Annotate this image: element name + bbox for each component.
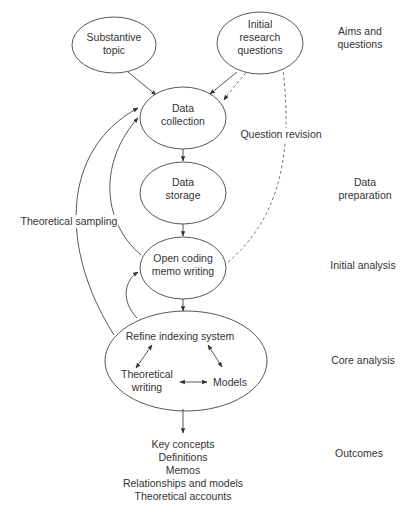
stage-outcomes: Outcomes: [335, 447, 383, 459]
stage-data-preparation: preparation: [338, 189, 391, 201]
edge-refine-models: [208, 345, 222, 367]
edge-topic-to-collection: [128, 72, 156, 95]
research-process-diagram: Substantive topic Initial research quest…: [0, 0, 404, 519]
outcome-item: Definitions: [158, 451, 207, 463]
svg-text:Theoretical sampling: Theoretical sampling: [21, 215, 118, 227]
node-label: topic: [103, 44, 125, 56]
stage-labels: Aims and questions Data preparation Init…: [330, 25, 395, 459]
core-theoretical-label: writing: [131, 381, 163, 393]
outcomes-list: Key concepts Definitions Memos Relations…: [123, 438, 243, 502]
node-label: storage: [165, 189, 200, 201]
edge-core-to-coding: [126, 272, 138, 318]
node-label: Data: [172, 176, 194, 188]
stage-initial-analysis: Initial analysis: [330, 259, 395, 271]
node-label: Initial: [248, 18, 273, 30]
outcome-item: Theoretical accounts: [135, 490, 232, 502]
node-core-analysis: Refine indexing system Theoretical writi…: [105, 311, 267, 411]
node-label: research: [240, 31, 281, 43]
stage-aims: Aims and: [338, 25, 382, 37]
node-initial-research-questions: Initial research questions: [217, 12, 303, 74]
node-data-collection: Data collection: [140, 87, 226, 149]
edge-label-question-revision: Question revision: [240, 128, 321, 141]
edge-question-revision: [224, 57, 286, 262]
node-substantive-topic: Substantive topic: [72, 17, 156, 73]
edge-refine-theoretical: [136, 345, 152, 368]
outcome-item: Key concepts: [151, 438, 214, 450]
core-theoretical-label: Theoretical: [121, 368, 173, 380]
node-label: Substantive: [87, 31, 142, 43]
node-label: Open coding: [153, 252, 213, 264]
node-open-coding: Open coding memo writing: [140, 237, 226, 299]
core-refine-label: Refine indexing system: [126, 330, 235, 342]
stage-aims: questions: [338, 38, 383, 50]
edge-coding-to-collection: [110, 118, 141, 255]
node-label: memo writing: [152, 265, 215, 277]
node-label: questions: [238, 44, 283, 56]
stage-data-preparation: Data: [354, 176, 376, 188]
svg-text:Question revision: Question revision: [240, 128, 321, 140]
outcome-item: Memos: [166, 464, 200, 476]
node-label: collection: [161, 115, 205, 127]
edge-questions-to-collection: [210, 72, 237, 94]
node-label: Data: [172, 102, 194, 114]
edge-label-theoretical-sampling: Theoretical sampling: [20, 215, 118, 228]
node-data-storage: Data storage: [140, 162, 226, 224]
core-models-label: Models: [213, 376, 247, 388]
outcome-item: Relationships and models: [123, 477, 243, 489]
stage-core-analysis: Core analysis: [331, 354, 395, 366]
